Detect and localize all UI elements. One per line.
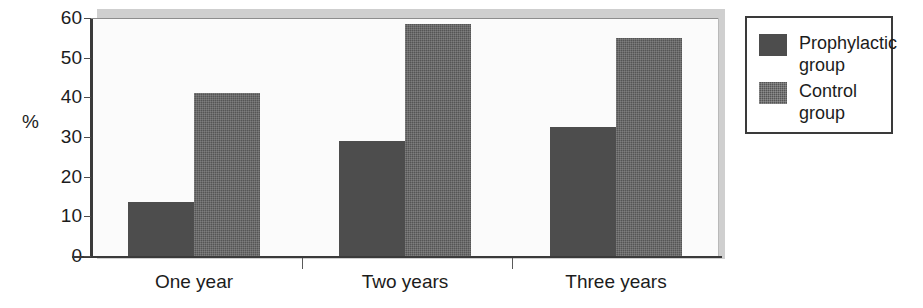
y-tick-mark-40 — [84, 97, 91, 98]
legend-swatch-prophylactic-icon — [759, 34, 787, 56]
x-category-label-0: One year — [104, 272, 284, 292]
bar-proph-1[interactable] — [339, 141, 405, 256]
bar-control-0[interactable] — [194, 93, 260, 256]
y-tick-mark-10 — [84, 216, 91, 217]
bar-chart-figure: % 6050403020100 One yearTwo yearsThree y… — [0, 0, 923, 308]
bar-control-1[interactable] — [405, 24, 471, 256]
y-tick-mark-50 — [84, 58, 91, 59]
legend-label-prophylactic: Prophylactic group — [799, 32, 897, 76]
legend-label-control: Control group — [799, 80, 857, 124]
y-tick-mark-60 — [84, 18, 91, 19]
legend-swatch-control-icon — [759, 82, 787, 104]
x-axis-separator-1 — [512, 258, 513, 269]
bar-proph-0[interactable] — [128, 202, 194, 256]
legend-item-prophylactic[interactable]: Prophylactic group — [759, 32, 897, 76]
legend-item-control[interactable]: Control group — [759, 80, 857, 124]
x-axis-baseline — [72, 256, 722, 258]
bar-control-2[interactable] — [616, 38, 682, 256]
bar-proph-2[interactable] — [550, 127, 616, 256]
x-category-label-1: Two years — [315, 272, 495, 292]
y-tick-mark-20 — [84, 177, 91, 178]
y-tick-mark-0 — [84, 256, 91, 257]
legend: Prophylactic group Control group — [745, 16, 893, 134]
y-tick-mark-30 — [84, 137, 91, 138]
x-category-label-2: Three years — [526, 272, 706, 292]
x-axis-separator-0 — [302, 258, 303, 269]
